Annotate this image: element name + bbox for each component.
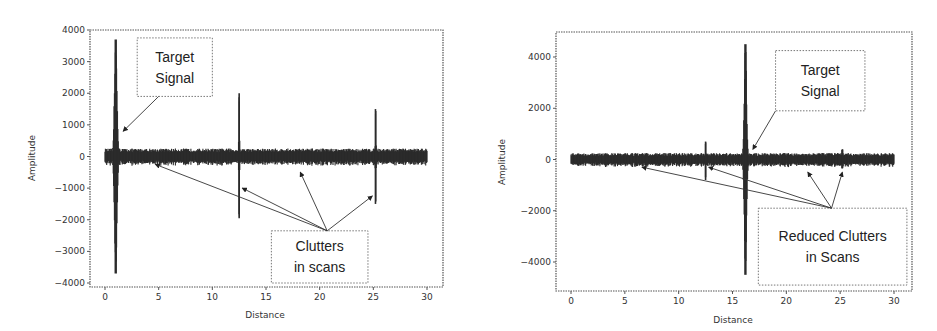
figure: 05101520253040003000200010000−1000−2000−… <box>0 0 937 331</box>
annotation-text: Signal <box>801 83 840 99</box>
annotation-text: in scans <box>294 259 345 275</box>
y-axis-label: Amplitude <box>27 134 37 181</box>
annotation-text: in Scans <box>806 249 860 265</box>
x-tick-label: 0 <box>568 296 574 306</box>
annotation-text: Reduced Clutters <box>779 228 887 244</box>
annotation-arrow <box>242 188 327 231</box>
y-axis-label: Amplitude <box>497 138 507 185</box>
y-tick-label: −4000 <box>55 278 86 288</box>
y-tick-label: 2000 <box>62 88 85 98</box>
y-tick-label: −2000 <box>55 215 86 225</box>
y-tick-label: −1000 <box>55 183 86 193</box>
x-tick-label: 5 <box>156 292 162 302</box>
x-tick-label: 25 <box>368 292 379 302</box>
y-tick-label: 1000 <box>62 120 85 130</box>
x-tick-label: 20 <box>314 292 326 302</box>
y-tick-label: 0 <box>545 155 551 165</box>
annotation-text: Target <box>155 49 194 65</box>
annotation-text: Target <box>801 62 840 78</box>
y-tick-label: −2000 <box>521 206 552 216</box>
x-axis-label: Distance <box>245 310 285 320</box>
annotation-target-signal: TargetSignal <box>123 38 212 131</box>
annotation-reduced-clutters: Reduced Cluttersin Scans <box>642 167 907 285</box>
x-tick-label: 5 <box>622 296 628 306</box>
annotation-arrow <box>123 96 158 131</box>
y-tick-label: 0 <box>79 152 85 162</box>
panel-after: 051015202530400020000−2000−4000DistanceA… <box>497 32 912 325</box>
annotation-text: Clutters <box>296 238 344 254</box>
x-tick-label: 10 <box>673 296 685 306</box>
y-tick-label: 2000 <box>528 103 551 113</box>
x-axis-label: Distance <box>713 315 753 325</box>
x-tick-label: 25 <box>834 296 845 306</box>
y-tick-label: 3000 <box>62 57 85 67</box>
annotation-box <box>758 208 907 285</box>
annotation-arrow <box>753 111 776 149</box>
annotation-clutters: Cluttersin scans <box>155 164 372 283</box>
annotation-arrow <box>642 167 831 208</box>
y-tick-label: −4000 <box>521 257 552 267</box>
x-tick-label: 15 <box>260 292 271 302</box>
annotation-arrow <box>709 167 832 208</box>
x-tick-label: 30 <box>421 292 433 302</box>
x-tick-label: 30 <box>888 296 900 306</box>
x-tick-label: 0 <box>102 292 108 302</box>
x-tick-label: 20 <box>781 296 793 306</box>
annotation-arrow <box>808 172 832 208</box>
panel-before: 05101520253040003000200010000−1000−2000−… <box>27 25 443 320</box>
y-tick-label: 4000 <box>62 25 85 35</box>
annotation-box <box>137 38 212 97</box>
y-tick-label: 4000 <box>528 52 551 62</box>
annotation-arrow <box>832 172 843 208</box>
x-tick-label: 10 <box>207 292 219 302</box>
annotation-box <box>776 51 865 111</box>
x-tick-label: 15 <box>727 296 738 306</box>
annotation-target-signal: TargetSignal <box>753 51 865 150</box>
annotation-text: Signal <box>155 70 194 86</box>
y-tick-label: −3000 <box>55 246 86 256</box>
annotation-arrow <box>327 196 372 231</box>
